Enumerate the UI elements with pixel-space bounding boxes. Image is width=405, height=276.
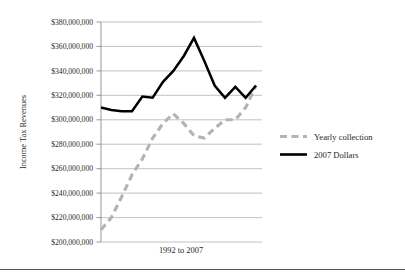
y-tick-label: $200,000,000: [51, 238, 93, 247]
y-tick-label: $380,000,000: [51, 18, 93, 27]
chart-figure: $380,000,000 $360,000,000 $340,000,000 $…: [0, 0, 405, 276]
y-tick-label: $320,000,000: [51, 91, 93, 100]
income-tax-revenues-line-chart: $380,000,000 $360,000,000 $340,000,000 $…: [0, 0, 405, 276]
y-tick-label: $340,000,000: [51, 67, 93, 76]
y-tick-label: $260,000,000: [51, 164, 93, 173]
y-tick-label: $280,000,000: [51, 140, 93, 149]
y-tick-label: $300,000,000: [51, 115, 93, 124]
legend-label-yearly-collection: Yearly collection: [314, 132, 373, 142]
y-tick-label: $360,000,000: [51, 42, 93, 51]
x-axis-title: 1992 to 2007: [159, 246, 203, 255]
legend-label-2007-dollars: 2007 Dollars: [314, 150, 359, 160]
y-tick-label: $220,000,000: [51, 213, 93, 222]
y-axis-title: Income Tax Revenues: [19, 95, 28, 169]
y-tick-label: $240,000,000: [51, 189, 93, 198]
